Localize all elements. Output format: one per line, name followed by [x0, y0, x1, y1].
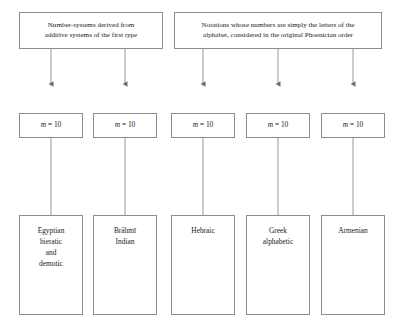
base-node-label: m = 10 — [343, 120, 364, 130]
system-node-label: Egyptian hieratic and demotic — [20, 225, 82, 269]
base-value: = 10 — [198, 120, 213, 129]
base-value: = 10 — [46, 120, 61, 129]
system-node-label: Armenian — [322, 225, 384, 236]
top-node-label: Number-systems derived from additive sys… — [25, 21, 157, 41]
base-node-greek: m = 10 — [246, 113, 310, 138]
system-node-brahmi: Brāhmī Indian — [93, 215, 157, 315]
base-node-brahmi: m = 10 — [93, 113, 157, 138]
top-node-additive-first-type: Number-systems derived from additive sys… — [19, 12, 163, 49]
system-node-armenian: Armenian — [321, 215, 385, 315]
top-node-phoenician-order: Notations whose numbers are simply the l… — [174, 12, 382, 49]
base-node-label: m = 10 — [193, 120, 214, 130]
top-node-label: Notations whose numbers are simply the l… — [180, 21, 376, 41]
system-node-hebraic: Hebraic — [171, 215, 235, 315]
flow-diagram: Number-systems derived from additive sys… — [0, 0, 400, 333]
system-node-greek: Greek alphabetic — [246, 215, 310, 315]
system-node-label: Brāhmī Indian — [94, 225, 156, 247]
base-value: = 10 — [273, 120, 288, 129]
base-node-egyptian: m = 10 — [19, 113, 83, 138]
base-value: = 10 — [348, 120, 363, 129]
system-node-egyptian: Egyptian hieratic and demotic — [19, 215, 83, 315]
base-node-label: m = 10 — [268, 120, 289, 130]
base-node-label: m = 10 — [115, 120, 136, 130]
system-node-label: Greek alphabetic — [247, 225, 309, 247]
base-value: = 10 — [120, 120, 135, 129]
base-node-hebraic: m = 10 — [171, 113, 235, 138]
system-node-label: Hebraic — [172, 225, 234, 236]
base-node-armenian: m = 10 — [321, 113, 385, 138]
base-node-label: m = 10 — [41, 120, 62, 130]
